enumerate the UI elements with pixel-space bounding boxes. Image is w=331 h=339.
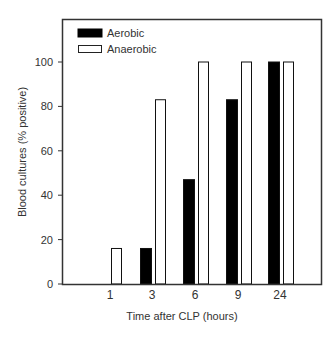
y-axis: 020406080100 — [35, 56, 62, 290]
bar-anaerobic-24 — [284, 62, 294, 284]
bar-anaerobic-1 — [112, 248, 122, 284]
legend: Aerobic Anaerobic — [78, 27, 157, 55]
legend-label-anaerobic: Anaerobic — [107, 43, 157, 55]
y-tick-label: 0 — [47, 278, 53, 290]
bars-group — [112, 62, 294, 284]
bar-aerobic-3 — [141, 248, 152, 284]
x-tick-label: 3 — [149, 288, 156, 302]
bar-anaerobic-6 — [199, 62, 209, 284]
bar-chart: 020406080100 136924 Aerobic Anaerobic Ti… — [0, 0, 331, 339]
x-tick-label: 24 — [273, 288, 287, 302]
y-tick-label: 100 — [35, 56, 53, 68]
legend-label-aerobic: Aerobic — [107, 27, 145, 39]
legend-swatch-anaerobic — [79, 46, 102, 53]
chart-canvas: 020406080100 136924 Aerobic Anaerobic Ti… — [0, 0, 331, 339]
legend-swatch-aerobic — [78, 29, 102, 37]
bar-aerobic-9 — [227, 100, 238, 284]
y-tick-label: 40 — [41, 189, 53, 201]
y-tick-label: 80 — [41, 100, 53, 112]
x-tick-label: 6 — [192, 288, 199, 302]
bar-anaerobic-3 — [156, 100, 166, 284]
x-tick-label: 1 — [107, 288, 114, 302]
x-axis: 136924 — [107, 288, 287, 302]
x-axis-label: Time after CLP (hours) — [126, 310, 237, 322]
y-tick-label: 20 — [41, 234, 53, 246]
x-tick-label: 9 — [235, 288, 242, 302]
y-axis-label: Blood cultures (% positive) — [16, 87, 28, 217]
y-tick-label: 60 — [41, 145, 53, 157]
bar-anaerobic-9 — [242, 62, 252, 284]
bar-aerobic-6 — [184, 180, 195, 284]
bar-aerobic-24 — [269, 62, 280, 284]
